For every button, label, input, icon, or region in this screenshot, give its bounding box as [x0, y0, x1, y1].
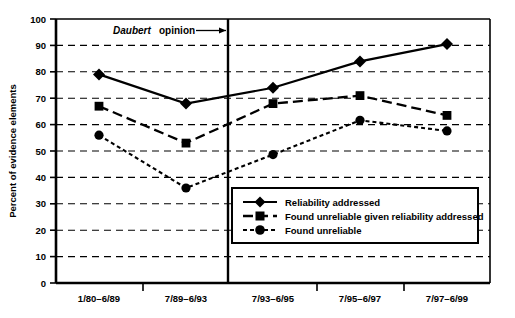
x-tick-label-4: 7/95–6/97 [339, 293, 381, 304]
data-point-marker [181, 183, 190, 192]
y-tick-label: 70 [35, 93, 46, 104]
daubert-annotation-italic: Daubert [113, 25, 151, 36]
x-tick-label-3: 7/93–6/95 [252, 293, 295, 304]
data-point-marker [268, 150, 277, 159]
chart-legend: Reliability addressed Found unreliable g… [232, 188, 484, 243]
data-point-marker [356, 91, 365, 100]
data-point-marker [182, 139, 191, 148]
y-tick-label: 30 [35, 198, 46, 209]
square-icon [256, 212, 265, 221]
legend-item-found-unreliable: Found unreliable [243, 225, 362, 236]
y-tick-label: 10 [35, 251, 46, 262]
y-tick-label: 100 [30, 14, 46, 25]
x-tick-label-5: 7/97–6/99 [426, 293, 468, 304]
circle-icon [255, 225, 265, 235]
daubert-annotation-normal: opinion [159, 25, 195, 36]
y-tick-label: 80 [35, 66, 46, 77]
line-chart: 100 90 80 70 60 50 40 30 20 10 0 Percent… [0, 0, 515, 318]
y-axis-title: Percent of evidence elements [7, 84, 18, 218]
y-tick-label: 50 [35, 146, 46, 157]
data-point-marker [94, 131, 103, 140]
legend-label: Found unreliable [285, 225, 362, 236]
x-tick-label-2: 7/89–6/93 [165, 293, 207, 304]
chart-figure: 100 90 80 70 60 50 40 30 20 10 0 Percent… [0, 0, 515, 318]
x-tick-label-1: 1/80–6/89 [78, 293, 120, 304]
y-tick-label: 20 [35, 225, 46, 236]
data-point-marker [355, 116, 364, 125]
y-tick-label: 40 [35, 172, 46, 183]
legend-label: Reliability addressed [285, 197, 380, 208]
x-axis-tick-labels: 1/80–6/89 7/89–6/93 7/93–6/95 7/95–6/97 … [78, 293, 468, 304]
legend-label: Found unreliable given reliability addre… [285, 211, 484, 222]
y-tick-label: 90 [35, 40, 46, 51]
data-point-marker [95, 102, 104, 111]
data-point-marker [443, 111, 452, 120]
data-point-marker [269, 99, 278, 108]
y-tick-label: 0 [41, 278, 46, 289]
y-axis-tick-labels: 100 90 80 70 60 50 40 30 20 10 0 [30, 14, 46, 289]
y-tick-label: 60 [35, 119, 46, 130]
data-point-marker [442, 126, 451, 135]
